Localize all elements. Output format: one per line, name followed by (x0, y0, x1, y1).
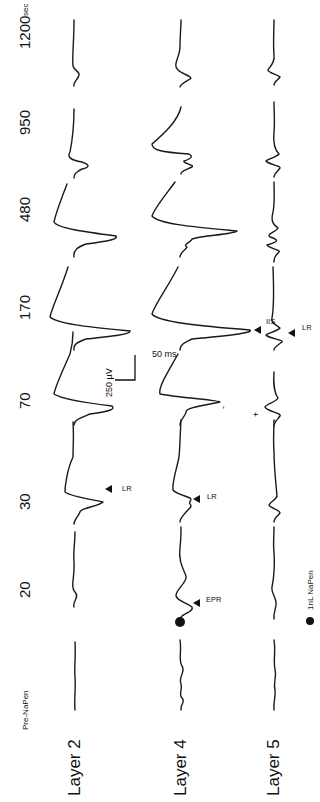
legend: 1nL NaPen (306, 570, 315, 625)
trace-layer4-70 (160, 354, 220, 425)
trace-layer4-pre (180, 640, 183, 710)
column-label-pre-napen: Pre-NaPen (21, 690, 30, 730)
trace-layer5-480 (267, 182, 279, 262)
scale-bar-time-label: 50 ms (152, 349, 177, 359)
trace-layer5-pre (274, 640, 276, 710)
trace-layer2-30 (65, 422, 103, 524)
time-labels: Pre-NaPen 20 30 70 170 480 950 1200 sec (16, 4, 33, 730)
layer-labels: Layer 2 Layer 4 Layer 5 (65, 739, 283, 796)
trace-layer5-20 (272, 527, 276, 619)
column-label-1200: 1200 (16, 16, 33, 49)
annot-epr-layer4-20: EPR (206, 595, 222, 604)
annot-plus-layer5-70: + (251, 412, 261, 417)
arrowhead-icon (254, 326, 261, 334)
arrowhead-icon (193, 599, 200, 607)
arrowhead-icon (193, 495, 200, 503)
figure: Pre-NaPen 20 30 70 170 480 950 1200 sec … (0, 0, 320, 802)
trace-layer4-950 (152, 107, 192, 174)
legend-label: 1nL NaPen (306, 570, 315, 610)
layer-5-traces (265, 20, 282, 710)
annotations: LR EPR LR - + IIS LR (105, 317, 312, 607)
trace-layer5-70 (265, 372, 280, 426)
annot-minus-layer4-70: - (218, 406, 228, 409)
trace-layer5-170 (266, 267, 282, 350)
scale-bar-lines (115, 355, 135, 380)
column-label-70: 70 (16, 392, 33, 409)
napen-injection-marker (175, 617, 185, 627)
annot-lr-layer5-170: LR (302, 323, 312, 332)
column-label-950: 950 (16, 110, 33, 135)
trace-layer2-950 (69, 109, 88, 178)
layer-2-traces (50, 20, 130, 710)
column-label-170: 170 (16, 295, 33, 320)
annot-iis-layer4-170: IIS (266, 317, 275, 326)
scale-bar-voltage-label: 250 µV (104, 368, 114, 397)
trace-layer4-170 (152, 267, 250, 350)
trace-layer2-170 (50, 267, 130, 350)
row-label-layer-5: Layer 5 (264, 739, 283, 796)
trace-layer4-480 (152, 182, 237, 257)
column-label-480: 480 (16, 197, 33, 222)
column-label-30: 30 (16, 493, 33, 510)
legend-marker-icon (306, 617, 314, 625)
row-label-layer-2: Layer 2 (65, 739, 84, 796)
column-label-20: 20 (16, 581, 33, 598)
annot-lr-layer2-30: LR (122, 484, 132, 493)
arrowhead-icon (105, 485, 112, 493)
trace-layer4-1200 (176, 20, 191, 87)
trace-layer4-30 (173, 420, 191, 522)
annot-lr-layer4-30: LR (207, 492, 217, 501)
row-label-layer-4: Layer 4 (171, 739, 190, 796)
figure-svg: Pre-NaPen 20 30 70 170 480 950 1200 sec … (0, 0, 320, 802)
arrowhead-icon (288, 329, 295, 337)
trace-layer2-pre (75, 642, 76, 710)
trace-layer5-950 (266, 102, 280, 177)
trace-layer2-1200 (73, 20, 79, 86)
time-unit-label: sec (21, 4, 30, 16)
trace-layer2-480 (54, 184, 116, 257)
trace-layer5-1200 (268, 20, 280, 85)
layer-4-traces (152, 20, 250, 710)
trace-layer2-20 (73, 532, 77, 607)
trace-layer4-20 (176, 527, 192, 622)
scale-bar: 250 µV 50 ms (104, 349, 177, 397)
trace-layer5-30 (269, 420, 280, 522)
